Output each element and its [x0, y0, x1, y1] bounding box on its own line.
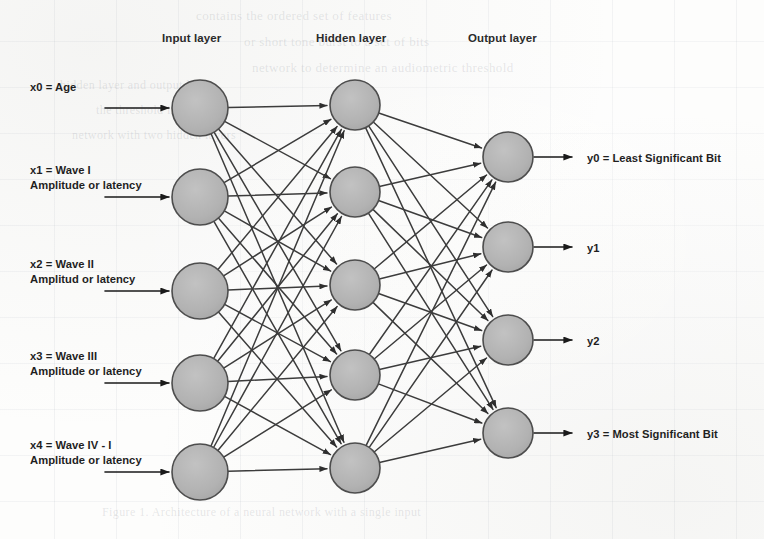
hidden-node-2	[330, 260, 380, 310]
edges-input-to-hidden	[211, 106, 344, 472]
input-label-x3: x3 = Wave IIIAmplitude or latency	[30, 349, 142, 378]
output-layer-title: Output layer	[468, 32, 537, 44]
input-label-line2: Amplitude or latency	[30, 364, 142, 379]
edge-hidden-1-output-2	[373, 209, 488, 320]
output-label-y3: y3 = Most Significant Bit	[587, 427, 718, 442]
output-label-y2: y2	[587, 334, 600, 349]
edge-hidden-3-output-1	[374, 265, 486, 359]
input-node-3	[172, 355, 228, 411]
hidden-node-1	[330, 167, 380, 217]
edge-hidden-0-output-0	[379, 113, 482, 148]
input-label-x2: x2 = Wave IIAmplitud or latency	[30, 257, 135, 286]
edges-hidden-to-output	[366, 113, 497, 462]
input-label-line1: x2 = Wave II	[30, 258, 94, 270]
hidden-node-4	[330, 443, 380, 493]
output-arrows	[534, 157, 572, 433]
input-node-2	[172, 263, 228, 319]
input-node-1	[172, 169, 228, 225]
input-label-line1: x3 = Wave III	[30, 350, 97, 362]
input-label-x1: x1 = Wave IAmplitude or latency	[30, 163, 142, 192]
input-label-line2: Amplitude or latency	[30, 453, 142, 468]
edge-hidden-2-output-0	[374, 175, 486, 269]
input-label-line1: x0 = Age	[30, 81, 76, 93]
edge-input-0-hidden-1	[225, 121, 331, 178]
diagram-canvas: contains the ordered set of featuresor s…	[0, 0, 764, 539]
hidden-node-0	[330, 80, 380, 130]
input-label-line2: Amplitud or latency	[30, 272, 135, 287]
input-label-line2: Amplitude or latency	[30, 178, 142, 193]
input-node-4	[172, 444, 228, 500]
input-label-x0: x0 = Age	[30, 80, 76, 95]
output-label-y1: y1	[587, 241, 600, 256]
hidden-node-3	[330, 350, 380, 400]
edge-input-1-hidden-0	[224, 119, 331, 182]
edge-hidden-4-output-3	[379, 439, 480, 462]
output-node-2	[483, 315, 533, 365]
output-node-0	[483, 132, 533, 182]
edge-hidden-4-output-2	[374, 358, 486, 452]
edge-input-4-hidden-4	[228, 469, 327, 472]
input-label-line1: x4 = Wave IV - I	[30, 439, 112, 451]
edge-input-0-hidden-0	[228, 106, 327, 108]
input-label-x4: x4 = Wave IV - IAmplitude or latency	[30, 438, 142, 467]
input-node-0	[172, 80, 228, 136]
output-node-3	[483, 408, 533, 458]
input-layer-title: Input layer	[162, 32, 221, 44]
edge-input-4-hidden-2	[218, 307, 337, 451]
edge-hidden-1-output-1	[379, 200, 482, 237]
hidden-layer-title: Hidden layer	[316, 32, 386, 44]
output-label-y0: y0 = Least Significant Bit	[587, 151, 721, 166]
output-node-1	[483, 222, 533, 272]
input-label-line1: x1 = Wave I	[30, 164, 91, 176]
